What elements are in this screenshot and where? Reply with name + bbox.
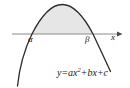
root-label-alpha: α (28, 35, 33, 44)
equation-label: y=ax2+bx+c (57, 68, 108, 78)
equation-term3: c (104, 67, 108, 78)
root-label-beta: β (85, 35, 89, 44)
x-axis-label: x (111, 33, 115, 42)
equation-plus-2: + (97, 67, 104, 78)
parabola-figure: α β x y=ax2+bx+c (0, 0, 130, 88)
x-axis-arrow-icon (117, 31, 123, 36)
